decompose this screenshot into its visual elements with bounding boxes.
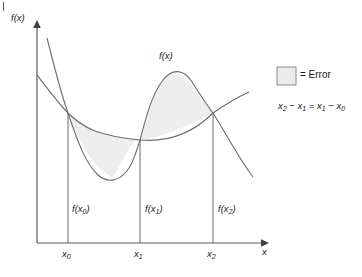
eq-sub-1: 2 — [283, 105, 287, 112]
ordinate-label-f-x1-tail: ) — [159, 203, 162, 214]
tick-label-x1-sub: 1 — [139, 253, 143, 260]
tick-label-x2-sub: 2 — [212, 253, 216, 260]
eq-op-2: = — [306, 100, 317, 111]
ordinate-label-f-x1-main: f(x — [145, 203, 156, 214]
ordinate-label-f-x0-tail: ) — [86, 203, 89, 214]
y-axis-label: f(x) — [11, 12, 25, 23]
tick-label-x0-sub: 0 — [67, 253, 71, 260]
ordinate-label-f-x2-tail: ) — [232, 203, 235, 214]
ordinate-label-f-x2-sub: 2 — [229, 208, 233, 215]
ordinate-label-f-x2: f(x2) — [218, 203, 236, 214]
eq-op-3: − — [326, 100, 337, 111]
legend-error-swatch — [277, 67, 296, 85]
interpolation-error-diagram — [0, 0, 362, 277]
ordinate-label-f-x1: f(x1) — [145, 203, 163, 214]
function-curve-label: f(x) — [159, 50, 173, 61]
ordinate-label-f-x0: f(x0) — [72, 203, 90, 214]
tick-label-x1: x1 — [134, 248, 143, 259]
eq-sub-3: 1 — [322, 105, 326, 112]
ordinate-label-f-x0-sub: 0 — [83, 208, 87, 215]
tick-label-x2: x2 — [207, 248, 216, 259]
error-lens-2-shade — [140, 73, 213, 140]
tick-label-x0: x0 — [62, 248, 71, 259]
ordinate-label-f-x0-main: f(x — [72, 203, 83, 214]
eq-term-3: x — [317, 100, 322, 111]
y-axis-arrowhead — [33, 20, 41, 28]
ordinate-label-f-x1-sub: 1 — [156, 208, 160, 215]
figure-page: f(x) x f(x) f(x0) f(x1) f(x2) x0 x1 x2 =… — [0, 0, 362, 277]
x-axis-label: x — [262, 246, 267, 257]
eq-sub-2: 1 — [302, 105, 306, 112]
eq-op-1: − — [287, 100, 298, 111]
ordinate-label-f-x2-main: f(x — [218, 203, 229, 214]
legend-error-text: = Error — [300, 69, 331, 80]
eq-sub-4: 0 — [341, 105, 345, 112]
node-spacing-equation: x2 − x1 = x1 − x0 — [278, 100, 345, 111]
